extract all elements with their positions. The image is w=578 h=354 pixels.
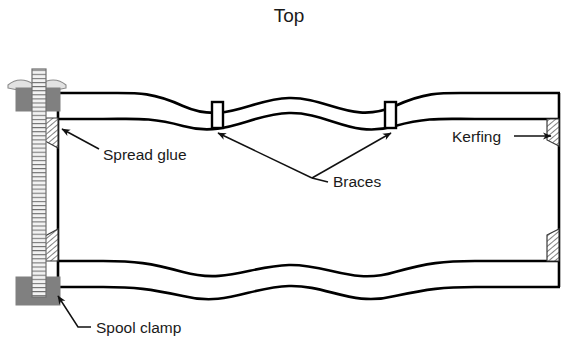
leader-brace-left [218, 133, 312, 178]
clamp-threaded-rod [32, 69, 46, 297]
label-spread-glue: Spread glue [103, 146, 187, 163]
page-title: Top [274, 5, 305, 26]
leader-braces-stem [312, 178, 328, 182]
label-braces: Braces [333, 173, 381, 190]
brace-right [385, 102, 396, 128]
kerfing-block-top-right [547, 119, 559, 146]
guitar-side-assembly-diagram: Top [0, 0, 578, 354]
leader-spool-clamp [58, 296, 91, 327]
kerfing-block-top-left [45, 118, 58, 148]
label-spool-clamp: Spool clamp [96, 319, 181, 336]
side-top-outer-edge [57, 93, 560, 113]
side-bottom-outer-edge [57, 286, 560, 299]
side-bottom-inner-edge [57, 261, 560, 276]
label-kerfing: Kerfing [452, 128, 501, 145]
brace-left [212, 102, 223, 128]
kerfing-block-bottom-left [45, 229, 58, 261]
leader-brace-right [312, 133, 391, 178]
kerfing-block-bottom-right [547, 229, 559, 261]
leader-spread-glue [62, 129, 99, 149]
rim-outlines [57, 92, 560, 299]
